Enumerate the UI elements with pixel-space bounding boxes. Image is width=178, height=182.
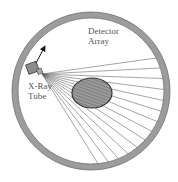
tube-label-line2: Tube [28,91,52,101]
xray-tube-label: X-Ray Tube [28,81,52,101]
xray-tube-icon [26,61,43,74]
detector-label-line2: Array [88,36,119,46]
detector-label-line1: Detector [88,26,119,36]
xray-beam-ray [42,58,156,74]
xray-beam-ray [42,68,160,74]
tube-label-line1: X-Ray [28,81,52,91]
rotation-arrow-icon [36,48,44,63]
scanned-object [72,78,112,108]
detector-array-label: Detector Array [88,26,119,46]
